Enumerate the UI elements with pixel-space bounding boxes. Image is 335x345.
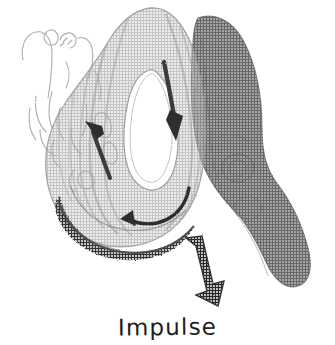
hand-drawn-diagram (0, 0, 335, 345)
impulse-label: Impulse (0, 314, 335, 341)
arrow-impulse (186, 236, 224, 306)
figure-canvas: Impulse (0, 0, 335, 345)
